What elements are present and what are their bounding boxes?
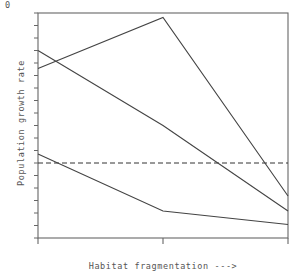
- plot-area: [0, 0, 301, 276]
- line-series-1-hump: [38, 18, 288, 197]
- line-series-2-decline: [38, 51, 288, 212]
- data-series-group: [38, 18, 288, 225]
- y-axis-label: Population growth rate: [16, 53, 26, 193]
- line-series-3-low: [38, 154, 288, 225]
- chart-figure: Population growth rate Habitat fragmenta…: [0, 0, 301, 276]
- x-axis-label: Habitat fragmentation --->: [38, 261, 288, 271]
- axis-ticks: [34, 13, 288, 244]
